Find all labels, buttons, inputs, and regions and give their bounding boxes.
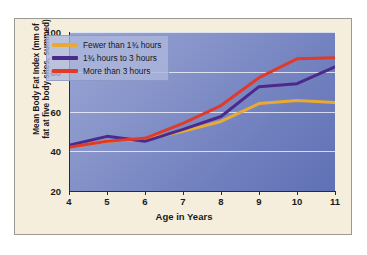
- x-tick-label-11: 11: [323, 196, 347, 207]
- legend-item-0: Fewer than 1¾ hours: [52, 40, 161, 50]
- x-tick-label-5: 5: [95, 196, 119, 207]
- x-tick-mark-9: [259, 191, 260, 195]
- x-tick-label-10: 10: [285, 196, 309, 207]
- x-tick-mark-11: [335, 191, 336, 195]
- legend-item-2: More than 3 hours: [52, 66, 161, 76]
- figure-root: Mean Body Fat Index (mm of fat at five b…: [0, 0, 367, 255]
- x-axis-line: [69, 191, 336, 192]
- x-tick-label-9: 9: [247, 196, 271, 207]
- x-tick-mark-4: [69, 191, 70, 195]
- legend-item-1: 1¾ hours to 3 hours: [52, 53, 161, 63]
- x-tick-mark-10: [297, 191, 298, 195]
- legend-swatch-0: [52, 43, 78, 46]
- x-tick-mark-8: [221, 191, 222, 195]
- y-tick-label-20: 20: [39, 186, 61, 197]
- x-tick-label-6: 6: [133, 196, 157, 207]
- legend-swatch-1: [52, 56, 78, 59]
- x-tick-mark-5: [107, 191, 108, 195]
- x-tick-label-4: 4: [57, 196, 81, 207]
- legend-label-2: More than 3 hours: [83, 67, 150, 75]
- y-tick-label-60: 60: [39, 106, 61, 117]
- chart-legend: Fewer than 1¾ hours1¾ hours to 3 hoursMo…: [46, 35, 169, 81]
- x-tick-label-7: 7: [171, 196, 195, 207]
- legend-label-0: Fewer than 1¾ hours: [83, 41, 161, 49]
- x-tick-mark-6: [145, 191, 146, 195]
- x-axis-title: Age in Years: [15, 211, 353, 222]
- y-tick-label-40: 40: [39, 146, 61, 157]
- legend-swatch-2: [52, 69, 78, 72]
- x-tick-label-8: 8: [209, 196, 233, 207]
- legend-label-1: 1¾ hours to 3 hours: [83, 54, 157, 62]
- x-tick-mark-7: [183, 191, 184, 195]
- chart-panel: Mean Body Fat Index (mm of fat at five b…: [14, 18, 352, 235]
